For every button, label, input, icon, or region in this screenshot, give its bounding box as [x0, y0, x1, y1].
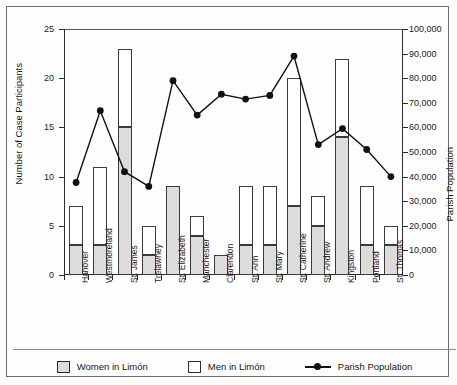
population-data-point[interactable] — [266, 92, 273, 99]
y-right-tick — [403, 78, 408, 79]
y-right-tick — [403, 29, 408, 30]
x-axis-label: St. Ann — [250, 256, 260, 283]
x-axis-label: St. Thomas — [395, 240, 405, 283]
population-data-point[interactable] — [291, 53, 298, 60]
y-right-tick-label: 60,000 — [409, 122, 437, 132]
legend-item[interactable]: Parish Population — [305, 361, 412, 373]
y-right-tick-label: 90,000 — [409, 49, 437, 59]
y-right-tick-label: 10,000 — [409, 245, 437, 255]
x-axis-label: Kingston — [346, 250, 356, 283]
population-data-point[interactable] — [388, 173, 395, 180]
population-data-point[interactable] — [339, 125, 346, 132]
x-axis-label: St. James — [129, 245, 139, 283]
y-right-tick-label: 50,000 — [409, 147, 437, 157]
x-axis-label: St. Andrew — [322, 242, 332, 283]
y-right-tick-label: 80,000 — [409, 73, 437, 83]
population-data-point[interactable] — [121, 168, 128, 175]
population-data-point[interactable] — [170, 77, 177, 84]
population-line-series — [64, 29, 403, 275]
y-left-tick-label: 20 — [14, 73, 54, 83]
men-swatch — [188, 361, 201, 373]
population-data-point[interactable] — [218, 91, 225, 98]
y-left-tick-label: 15 — [14, 122, 54, 132]
population-data-point[interactable] — [242, 96, 249, 103]
y-left-tick-label: 0 — [14, 270, 54, 280]
y-right-tick — [403, 201, 408, 202]
y-right-tick — [403, 54, 408, 55]
legend-label: Parish Population — [338, 361, 412, 372]
x-axis-label: Westmoreland — [104, 228, 114, 283]
y-right-tick — [403, 152, 408, 153]
population-data-point[interactable] — [315, 141, 322, 148]
legend-label: Women in Limón — [77, 361, 148, 372]
x-axis-label: Clarendon — [225, 244, 235, 283]
population-data-point[interactable] — [73, 179, 80, 186]
y-left-tick-label: 25 — [14, 24, 54, 34]
population-data-point[interactable] — [194, 112, 201, 119]
chart-screenshot: Number of Case Participants Parish Popul… — [0, 0, 457, 385]
y-right-tick — [403, 226, 408, 227]
y-right-tick-label: 0 — [409, 270, 414, 280]
y-right-tick-label: 40,000 — [409, 172, 437, 182]
y-right-tick-label: 30,000 — [409, 196, 437, 206]
x-axis-label: Trelawney — [153, 244, 163, 283]
legend-label: Men in Limón — [208, 361, 265, 372]
y-right-tick — [403, 127, 408, 128]
x-axis-label: Portland — [371, 251, 381, 283]
x-axis-label: St. Catherine — [298, 233, 308, 283]
y-right-tick — [403, 177, 408, 178]
plot-area: 0510152025 010,00020,00030,00040,00050,0… — [64, 29, 403, 275]
legend-item[interactable]: Women in Limón — [57, 361, 148, 373]
legend-item[interactable]: Men in Limón — [188, 361, 265, 373]
population-data-point[interactable] — [97, 107, 104, 114]
x-axis-label: St. Mary — [274, 251, 284, 283]
chart-frame: Number of Case Participants Parish Popul… — [6, 6, 449, 377]
x-axis-label: St. Elizabeth — [177, 235, 187, 283]
population-data-point[interactable] — [145, 183, 152, 190]
y-left-tick-label: 10 — [14, 172, 54, 182]
y-right-tick-label: 20,000 — [409, 221, 437, 231]
y-axis-right-title: Parish Population — [444, 147, 455, 221]
chart-legend: Women in LimónMen in LimónParish Populat… — [13, 349, 456, 383]
x-axis-label: Hanover — [80, 251, 90, 283]
y-left-tick-label: 5 — [14, 221, 54, 231]
x-tick — [64, 275, 65, 280]
y-right-tick-label: 100,000 — [409, 24, 442, 34]
population-data-point[interactable] — [363, 146, 370, 153]
line-marker-swatch — [305, 361, 331, 373]
y-right-tick — [403, 103, 408, 104]
y-right-tick-label: 70,000 — [409, 98, 437, 108]
population-line — [76, 56, 391, 186]
women-swatch — [57, 361, 70, 373]
x-axis-label: Manchester — [201, 239, 211, 283]
